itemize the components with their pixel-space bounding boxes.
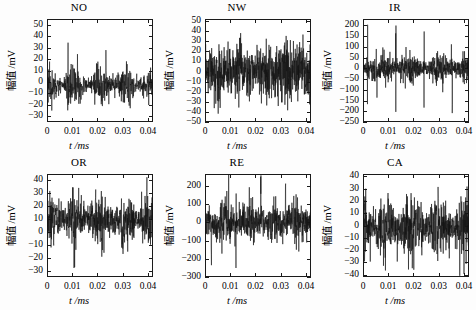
x-tick-label: 0.02 [89,126,106,136]
y-tick-label: 0 [354,64,359,74]
y-tick-label: 20 [34,201,44,211]
x-tick-label: 0.01 [64,126,81,136]
x-axis-label-text: t /ms [385,295,405,306]
x-tick-label: 0.03 [114,281,131,291]
subplot-title: NW [158,1,316,14]
y-tick-label: 20 [34,54,44,64]
x-tick-label: 0.02 [247,126,264,136]
waveform-trace [47,19,153,122]
y-axis-label: 幅值 /mV [163,190,176,260]
y-tick-label: 20 [350,196,360,206]
y-tick-label: 20 [192,47,202,57]
plot-area: −30−20−1001020304000.010.020.030.04 [47,174,153,277]
x-tick-label: 0.04 [456,126,473,136]
x-tick-label: 0.04 [298,126,315,136]
y-tick-label: −40 [344,270,359,280]
plot-area: −300−200−100010020000.010.020.030.04 [205,174,311,277]
y-tick-label: 0 [196,218,201,228]
y-tick-mark [307,277,311,278]
y-tick-label: 10 [192,57,202,67]
x-tick-label: 0.01 [380,126,397,136]
y-tick-mark [363,122,367,123]
y-tick-label: 50 [350,53,360,63]
y-axis-label: 幅值 /mV [321,35,334,105]
x-tick-label: 0.02 [405,281,422,291]
x-tick-label: 0.04 [456,281,473,291]
y-axis-label: 幅值 /mV [5,35,18,105]
subplot-title: IR [316,1,474,14]
y-tick-label: −50 [186,117,201,127]
x-axis-label-text: t /ms [69,295,89,306]
y-tick-label: 10 [350,208,360,218]
waveform-trace [363,174,469,277]
y-tick-mark [205,122,209,123]
y-tick-label: 0 [354,221,359,231]
y-tick-label: 30 [34,43,44,53]
y-tick-mark [307,122,311,123]
x-tick-label: 0.03 [430,126,447,136]
y-tick-label: 30 [34,189,44,199]
waveform-trace [363,19,469,122]
x-tick-label: 0 [45,281,50,291]
y-tick-label: −40 [186,107,201,117]
y-tick-label: 50 [34,20,44,30]
subplot-no: NO−30−20−100102030405000.010.020.030.04幅… [0,0,158,155]
x-tick-label: 0.02 [89,281,106,291]
y-tick-label: 10 [34,66,44,76]
subplot-or: OR−30−20−1001020304000.010.020.030.04幅值 … [0,155,158,310]
y-tick-mark [465,122,469,123]
x-tick-label: 0.01 [222,126,239,136]
x-axis-label-text: t /ms [227,140,247,151]
x-axis-label-text: t /ms [385,140,405,151]
waveform-trace [47,174,153,277]
subplot-ir: IR−250−200−150−100−5005010015020000.010.… [316,0,474,155]
y-tick-label: 100 [187,199,201,209]
y-tick-label: −250 [339,117,359,127]
subplot-ca: CA−40−30−20−1001020304000.010.020.030.04… [316,155,474,310]
x-tick-label: 0.03 [272,126,289,136]
y-tick-label: −30 [186,97,201,107]
y-tick-label: −200 [339,107,359,117]
y-tick-label: 200 [345,21,359,31]
x-tick-label: 0.01 [64,281,81,291]
x-tick-label: 0.03 [430,281,447,291]
y-tick-label: −30 [28,112,43,122]
x-tick-label: 0.04 [298,281,315,291]
x-axis-label: t /ms [158,295,316,307]
y-tick-label: 30 [350,184,360,194]
y-tick-label: −10 [186,77,201,87]
y-tick-label: 40 [350,172,360,182]
x-axis-label: t /ms [316,295,474,307]
waveform-trace [205,174,311,277]
x-tick-label: 0 [361,281,366,291]
y-tick-label: −200 [181,254,201,264]
waveform-trace [205,19,311,122]
x-tick-label: 0.01 [222,281,239,291]
plot-area: −250−200−150−100−5005010015020000.010.02… [363,19,469,122]
y-tick-label: −10 [344,233,359,243]
x-axis-label: t /ms [0,140,158,152]
y-tick-label: 40 [192,26,202,36]
y-tick-label: −10 [28,240,43,250]
y-axis-label: 幅值 /mV [5,190,18,260]
y-tick-label: −150 [339,96,359,106]
y-tick-label: −10 [28,89,43,99]
x-tick-label: 0.02 [405,126,422,136]
x-tick-label: 0.03 [272,281,289,291]
plot-area: −30−20−100102030405000.010.020.030.04 [47,19,153,122]
y-tick-mark [205,277,209,278]
y-tick-label: 10 [34,214,44,224]
y-tick-label: −50 [344,74,359,84]
x-axis-label: t /ms [158,140,316,152]
x-tick-label: 0.01 [380,281,397,291]
y-tick-label: −20 [28,253,43,263]
x-axis-label: t /ms [0,295,158,307]
y-tick-label: 0 [38,227,43,237]
y-axis-label: 幅值 /mV [321,190,334,260]
y-tick-label: −20 [344,245,359,255]
x-axis-label: t /ms [316,140,474,152]
x-tick-label: 0.03 [114,126,131,136]
x-tick-label: 0 [203,126,208,136]
x-axis-label-text: t /ms [69,140,89,151]
x-axis-label-text: t /ms [227,295,247,306]
